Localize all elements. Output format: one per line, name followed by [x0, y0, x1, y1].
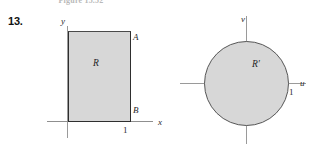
y-axis-label: y [61, 16, 65, 26]
v-axis-label: v [241, 14, 245, 24]
u-axis-tick-label-one: 1 [289, 87, 294, 97]
panel-uv-plane: v u R′ 1 [175, 0, 311, 160]
figure-page: Figure 15.52 13. y x A B R 1 v u R′ 1 [0, 0, 311, 160]
panel-xy-plane: y x A B R 1 [0, 0, 175, 160]
region-label-r: R [93, 58, 99, 68]
x-axis-tick-label-one: 1 [123, 125, 128, 135]
region-label-r-prime: R′ [252, 59, 260, 69]
u-axis-label: u [300, 78, 305, 88]
region-r-prime-disk [204, 41, 289, 126]
point-label-a: A [133, 32, 139, 42]
x-axis-label: x [158, 117, 162, 127]
region-r-rectangle [68, 31, 131, 122]
point-label-b: B [133, 105, 139, 115]
